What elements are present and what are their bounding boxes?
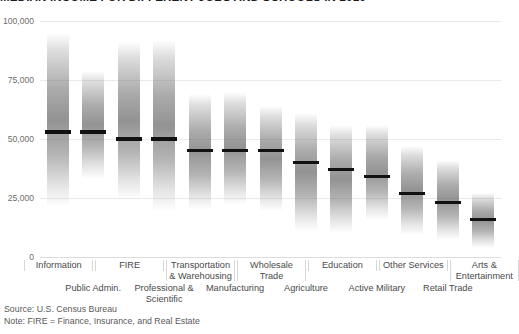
median-marker	[116, 137, 142, 140]
fire-note: Note: FIRE = Finance, Insurance, and Rea…	[4, 315, 494, 327]
distribution-bar	[153, 40, 175, 211]
distribution-bar	[260, 106, 282, 211]
distribution-bar	[401, 146, 423, 235]
footnotes: Source: U.S. Census Bureau Note: FIRE = …	[4, 303, 494, 328]
chart-title: MEDIAN INCOME FOR DIFFERENT JOBS AND SCH…	[0, 0, 501, 3]
x-axis-label: Education	[308, 260, 377, 271]
median-marker	[187, 149, 213, 152]
distribution-bar	[330, 125, 352, 234]
x-axis-label: Information	[24, 260, 93, 271]
x-axis-label: Wholesale Trade	[237, 260, 306, 281]
x-axis-label: Manufacturing	[200, 283, 271, 294]
x-axis-labels: InformationFIRETransportation & Warehous…	[40, 257, 501, 301]
x-axis-label: Other Services	[379, 260, 448, 271]
distribution-bar	[295, 113, 317, 231]
x-axis-label: Professional & Scientific	[129, 283, 200, 304]
median-marker	[80, 130, 106, 133]
y-axis-tick-label: 100,000	[0, 16, 34, 26]
x-axis-label: Agriculture	[271, 283, 342, 294]
y-axis-tick-label: 75,000	[0, 75, 34, 85]
median-marker	[328, 168, 354, 171]
median-marker	[151, 137, 177, 140]
x-axis-label: Active Military	[341, 283, 412, 294]
x-axis-label: FIRE	[95, 260, 164, 271]
median-marker	[399, 192, 425, 195]
x-axis-label: Transportation & Warehousing	[166, 260, 235, 281]
distribution-bar	[47, 33, 69, 208]
gridline	[40, 80, 501, 81]
median-marker	[45, 130, 71, 133]
median-marker	[258, 149, 284, 152]
distribution-bar	[118, 42, 140, 200]
y-axis-tick-label: 25,000	[0, 193, 34, 203]
plot-area	[40, 21, 501, 257]
median-marker	[470, 218, 496, 221]
median-marker	[222, 149, 248, 152]
median-marker	[435, 201, 461, 204]
x-axis-label: Retail Trade	[412, 283, 483, 294]
x-axis-label: Public Admin.	[58, 283, 129, 294]
y-axis-tick-label: 50,000	[0, 134, 34, 144]
distribution-bar	[82, 71, 104, 180]
distribution-bar	[366, 125, 388, 221]
median-marker	[364, 175, 390, 178]
y-axis: 025,00050,00075,000100,000	[0, 21, 34, 257]
gridline	[40, 21, 501, 22]
source-note: Source: U.S. Census Bureau	[4, 303, 494, 315]
x-axis-label: Arts & Entertainment	[450, 260, 519, 281]
median-marker	[293, 161, 319, 164]
